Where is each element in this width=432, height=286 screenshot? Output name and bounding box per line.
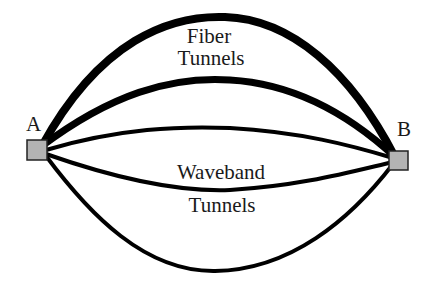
node-b-box — [389, 151, 408, 170]
node-b-label: B — [397, 119, 411, 140]
fiber-tunnels-label-line1: Fiber — [187, 26, 231, 47]
node-a-label: A — [26, 114, 41, 135]
waveband-tunnels-label-line1: Waveband — [177, 162, 265, 183]
node-a-box — [27, 140, 47, 160]
fiber-tunnels-label-line2: Tunnels — [178, 48, 245, 69]
waveband-tunnels-label-line2: Tunnels — [189, 195, 256, 216]
waveband-tunnel-edge-upper — [46, 127, 393, 158]
